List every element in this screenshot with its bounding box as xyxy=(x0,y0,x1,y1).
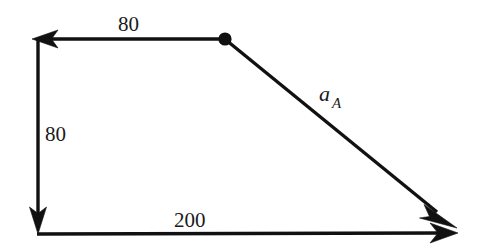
bottom-vector-shaft xyxy=(37,233,442,234)
vector-diagram-canvas: 80 80 200 a A xyxy=(0,0,478,250)
resultant-label-subscript: A xyxy=(331,95,342,111)
left-vector-label: 80 xyxy=(45,122,66,146)
apex-dot xyxy=(218,32,231,45)
resultant-label-base: a xyxy=(319,81,330,106)
bottom-vector-label: 200 xyxy=(174,208,206,232)
top-vector-label: 80 xyxy=(118,12,139,36)
vector-diagram: 80 80 200 a A xyxy=(0,0,478,250)
